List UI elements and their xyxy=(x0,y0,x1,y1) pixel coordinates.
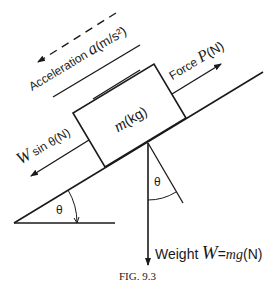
w-sin-theta-label: W sin θ(N) xyxy=(13,122,74,169)
force-label: Force P(N) xyxy=(165,36,226,82)
base-angle-label: θ xyxy=(56,203,63,217)
weight-angle-label: θ xyxy=(154,175,161,189)
normal-line xyxy=(148,143,183,203)
figure-caption: FIG. 9.3 xyxy=(119,270,156,282)
weight-angle-arc xyxy=(148,192,176,200)
weight-label: Weight W=mg(N) xyxy=(155,242,262,263)
inclined-plane-diagram: θ m(kg) Force P(N) W sin θ(N) Accelerati… xyxy=(0,0,279,283)
base-angle-arc xyxy=(68,190,77,223)
